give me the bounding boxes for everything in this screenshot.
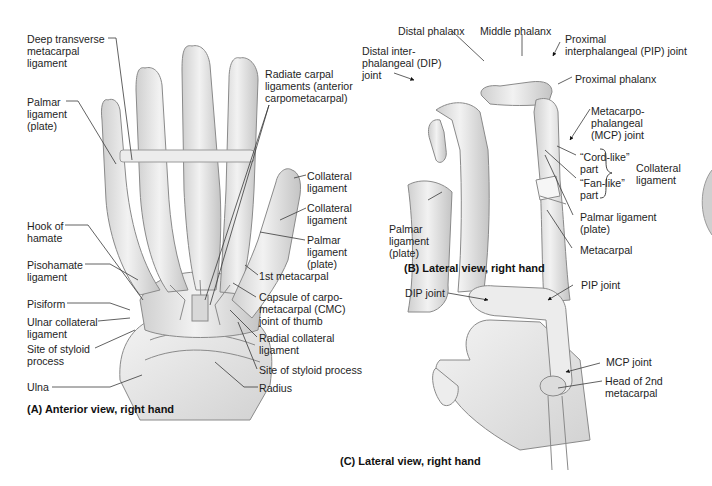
label-palmar-ligament-plate-right: Palmar ligament (plate) xyxy=(580,211,657,235)
label-hook-of-hamate: Hook of hamate xyxy=(27,220,64,244)
caption-panel-c: (C) Lateral view, right hand xyxy=(340,455,481,467)
panel-b-bones-illustration xyxy=(408,81,570,312)
label-metacarpal: Metacarpal xyxy=(580,244,632,256)
label-ulnar-collateral-ligament: Ulnar collateral ligament xyxy=(27,316,98,340)
label-dip-joint-lateral: Distal inter- phalangeal (DIP) joint xyxy=(362,45,442,81)
label-cord-like-part: “Cord-like” part xyxy=(580,151,629,175)
edge-figure-fragment xyxy=(702,170,712,235)
label-palmar-ligament-plate: Palmar ligament (plate) xyxy=(27,96,67,132)
label-palmar-ligament-plate-thumb: Palmar ligament (plate) xyxy=(307,234,347,270)
label-middle-phalanx: Middle phalanx xyxy=(480,25,551,37)
label-distal-phalanx: Distal phalanx xyxy=(398,25,465,37)
label-mcp-joint-flexed: MCP joint xyxy=(606,356,652,368)
label-palmar-ligament-plate-left: Palmar ligament (plate) xyxy=(389,223,429,259)
label-collateral-ligament-2: Collateral ligament xyxy=(307,202,352,226)
label-ulna: Ulna xyxy=(27,381,49,393)
label-site-of-styloid-process-radius: Site of styloid process xyxy=(259,364,362,376)
panel-c-hand-illustration xyxy=(433,286,590,470)
label-first-metacarpal: 1st metacarpal xyxy=(259,270,328,282)
label-fan-like-part: “Fan-like” part xyxy=(580,177,625,201)
label-radius: Radius xyxy=(259,382,292,394)
label-pip-joint-lateral: Proximal interphalangeal (PIP) joint xyxy=(565,33,687,57)
label-radial-collateral-ligament: Radial collateral ligament xyxy=(259,332,334,356)
label-pisohamate-ligament: Pisohamate ligament xyxy=(27,259,83,283)
label-collateral-ligament-group: Collateral ligament xyxy=(636,162,681,186)
label-mcp-joint-lateral: Metacarpo- phalangeal (MCP) joint xyxy=(591,105,645,141)
label-dip-joint-flexed: DIP joint xyxy=(405,287,445,299)
label-pip-joint-flexed: PIP joint xyxy=(581,279,620,291)
label-pisiform: Pisiform xyxy=(27,298,65,310)
label-cmc-joint-capsule: Capsule of carpo- metacarpal (CMC) joint… xyxy=(259,291,346,327)
hand-ligaments-figure: Deep transverse metacarpal ligament Palm… xyxy=(0,0,712,486)
label-collateral-ligament-1: Collateral ligament xyxy=(307,170,352,194)
label-deep-transverse-metacarpal-ligament: Deep transverse metacarpal ligament xyxy=(27,33,105,69)
caption-panel-a: (A) Anterior view, right hand xyxy=(27,403,174,415)
label-radiate-carpal-ligaments: Radiate carpal ligaments (anterior carpo… xyxy=(265,68,353,104)
label-site-of-styloid-process-ulna: Site of styloid process xyxy=(27,343,90,367)
label-head-of-2nd-metacarpal: Head of 2nd metacarpal xyxy=(605,375,663,399)
caption-panel-b: (B) Lateral view, right hand xyxy=(404,262,545,274)
label-proximal-phalanx: Proximal phalanx xyxy=(575,73,656,85)
